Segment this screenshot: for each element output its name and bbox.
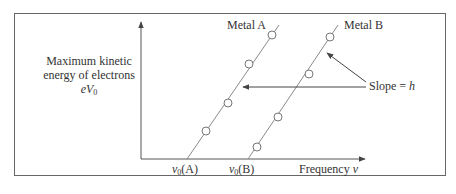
data-point bbox=[305, 70, 313, 78]
slope-label: Slope = h bbox=[369, 80, 415, 93]
slope-arrow-to-b bbox=[327, 53, 366, 82]
y-axis-label-line-1: Maximum kinetic bbox=[40, 54, 138, 68]
x-axis-label: Frequency ν bbox=[299, 163, 358, 176]
y-axis-label: Maximum kinetic energy of electrons eV0 bbox=[40, 54, 138, 100]
threshold-b-label: ν0(B) bbox=[229, 163, 254, 179]
y-axis-label-line-2: energy of electrons bbox=[40, 68, 138, 82]
data-point bbox=[253, 143, 261, 151]
metal-b-label: Metal B bbox=[344, 19, 383, 32]
metal-a-line bbox=[187, 25, 279, 159]
metal-b-line bbox=[248, 25, 338, 159]
data-point bbox=[326, 33, 334, 41]
threshold-a-label: ν0(A) bbox=[172, 163, 198, 179]
y-axis-symbol: eV0 bbox=[40, 82, 138, 100]
metal-a-label: Metal A bbox=[227, 19, 266, 32]
data-point bbox=[274, 113, 282, 121]
data-point bbox=[245, 60, 253, 68]
data-point bbox=[224, 99, 232, 107]
data-point bbox=[202, 127, 210, 135]
data-point bbox=[268, 31, 276, 39]
